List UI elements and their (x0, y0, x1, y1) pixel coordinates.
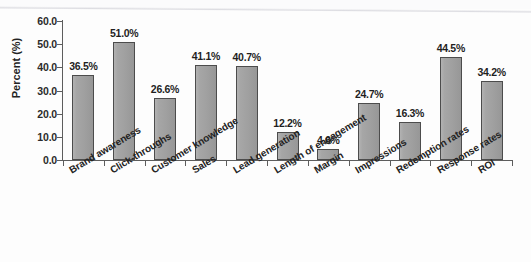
x-axis-tick (349, 161, 350, 166)
bar-value-label: 16.3% (382, 107, 438, 119)
y-axis-tick-label: 10.0 (17, 131, 57, 143)
bar-value-label: 12.2% (260, 117, 316, 129)
y-axis-tick-labels: 60.050.040.030.020.010.00.0 (8, 0, 57, 262)
bar-value-label: 26.6% (137, 83, 193, 95)
y-axis-tick-label: 40.0 (17, 61, 57, 73)
bar (72, 75, 94, 160)
bar-value-label: 44.5% (423, 42, 479, 54)
x-axis-tick (104, 161, 105, 166)
bar-value-label: 51.0% (96, 27, 152, 39)
x-axis-tick (512, 161, 513, 166)
y-axis-tick-label: 30.0 (17, 85, 57, 97)
y-axis-tick-label: 50.0 (17, 38, 57, 50)
x-axis-tick (390, 161, 391, 166)
x-axis-tick (145, 161, 146, 166)
bar-value-label: 34.2% (464, 66, 520, 78)
y-axis-tick-label: 20.0 (17, 108, 57, 120)
bar-value-label: 36.5% (55, 60, 111, 72)
x-axis-tick (267, 161, 268, 166)
y-axis-tick-label: 60.0 (17, 15, 57, 27)
x-axis-tick (308, 161, 309, 166)
bar-value-label: 24.7% (341, 88, 397, 100)
bar-value-label: 40.7% (219, 51, 275, 63)
x-axis-tick (471, 161, 472, 166)
x-axis-tick (226, 161, 227, 166)
y-axis-tick-label: 0.0 (17, 154, 57, 166)
bar (236, 66, 258, 160)
x-axis-tick (430, 161, 431, 166)
x-axis-tick (63, 161, 64, 166)
x-axis-tick (185, 161, 186, 166)
bar-chart: Percent (%) 60.050.040.030.020.010.00.0 … (0, 0, 531, 262)
